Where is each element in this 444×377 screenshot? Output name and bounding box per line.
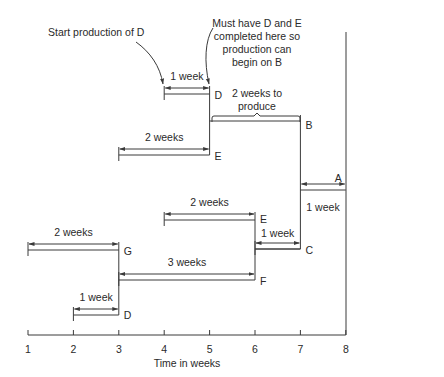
item-c: 1 weekC <box>255 227 313 256</box>
x-tick-label-7: 7 <box>297 343 303 355</box>
item-e-under-b: 2 weeksE <box>119 131 222 162</box>
duration-label: 1 week <box>170 70 204 82</box>
must-have-annotation-line1: Must have D and E <box>212 17 301 29</box>
time-phased-product-structure: 12345678 Time in weeks 1 weekAB1 weekC1 … <box>0 0 444 377</box>
duration-label: 2 weeks <box>145 131 184 143</box>
start-production-annotation: Start production of D <box>48 26 145 38</box>
b-duration-label-line2: produce <box>238 100 276 112</box>
duration-label: 2 weeks <box>54 226 93 238</box>
item-g: 2 weeksG <box>28 226 132 257</box>
must-have-annotation-line3: production can <box>223 43 292 55</box>
item-d-under-b: 1 weekD <box>164 70 222 101</box>
item-label-a: A <box>335 172 342 184</box>
item-label-d: D <box>124 309 132 321</box>
structure-lines: 1 weekAB1 weekC1 weekD2 weeksE2 weeksE3 … <box>28 70 346 321</box>
duration-label: 2 weeks <box>190 196 229 208</box>
must-have-annotation-line4: begin on B <box>232 56 282 68</box>
item-a: 1 weekA <box>300 172 345 213</box>
duration-label: 1 week <box>79 291 113 303</box>
item-e-under-c: 2 weeksE <box>164 196 267 226</box>
x-tick-label-2: 2 <box>70 343 76 355</box>
x-tick-label-6: 6 <box>252 343 258 355</box>
axis-title: Time in weeks <box>154 357 221 369</box>
item-label-f: F <box>260 275 266 287</box>
x-tick-label-8: 8 <box>343 343 349 355</box>
item-label-d: D <box>215 89 223 101</box>
x-tick-label-5: 5 <box>207 343 213 355</box>
start-production-pointer <box>136 42 163 84</box>
duration-label: 1 week <box>261 227 295 239</box>
item-label-b: B <box>305 119 312 131</box>
x-tick-label-1: 1 <box>25 343 31 355</box>
x-tick-label-3: 3 <box>116 343 122 355</box>
item-label-e: E <box>215 150 222 162</box>
item-d-under-f: 1 weekD <box>73 291 131 321</box>
item-label-e: E <box>260 213 267 225</box>
duration-label: 3 weeks <box>168 256 207 268</box>
must-have-pointer <box>206 28 213 84</box>
b-duration-label-line1: 2 weeks to <box>232 87 282 99</box>
must-have-annotation-line2: completed here so <box>214 30 301 42</box>
item-label-g: G <box>124 245 132 257</box>
duration-label: 1 week <box>306 201 340 213</box>
x-tick-label-4: 4 <box>161 343 167 355</box>
item-b: B <box>210 119 313 131</box>
item-f: 3 weeksF <box>119 256 267 287</box>
item-label-c: C <box>305 244 313 256</box>
time-axis: 12345678 <box>25 330 349 355</box>
